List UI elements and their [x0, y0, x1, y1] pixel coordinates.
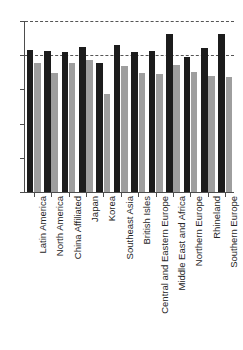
bar: [191, 72, 198, 192]
bar: [121, 66, 128, 192]
bar: [86, 60, 93, 192]
bar: [201, 48, 208, 192]
x-axis-label: Korea: [107, 196, 117, 221]
x-axis-label: North America: [55, 196, 65, 256]
bar: [139, 73, 146, 192]
x-axis-label: China Affiliated: [73, 196, 83, 259]
x-axis-label: Southern Europe: [229, 196, 239, 268]
bar: [27, 50, 34, 192]
bar: [226, 77, 233, 192]
bar: [51, 73, 58, 192]
bar: [79, 47, 86, 192]
bar: [104, 94, 111, 192]
bar: [96, 63, 103, 192]
bar: [156, 74, 163, 192]
x-axis-label: Latin America: [38, 196, 48, 254]
x-axis-label: Southeast Asia: [125, 196, 135, 259]
bars-layer: [25, 12, 234, 193]
bar: [218, 34, 225, 192]
bar: [69, 63, 76, 192]
x-axis-label: Rhineland: [212, 196, 222, 239]
bar: [34, 63, 41, 192]
bar: [131, 52, 138, 192]
bar: [184, 57, 191, 192]
bar: [208, 76, 215, 192]
bar: [166, 34, 173, 192]
bar-chart: 012345 Latin AmericaNorth AmericaChina A…: [0, 0, 243, 350]
bar: [44, 51, 51, 192]
bar: [62, 52, 69, 192]
x-axis-label: Middle East and Africa: [177, 196, 187, 291]
bar: [149, 51, 156, 192]
bar: [114, 45, 121, 192]
bar: [173, 65, 180, 192]
x-axis-label: Central and Eastern Europe: [160, 196, 170, 314]
x-axis-label: British Isles: [142, 196, 152, 245]
plot-area: [24, 12, 236, 193]
x-axis-labels: Latin AmericaNorth AmericaChina Affiliat…: [24, 196, 236, 346]
x-axis-label: Japan: [90, 196, 100, 222]
x-axis-label: Northern Europe: [194, 196, 204, 266]
